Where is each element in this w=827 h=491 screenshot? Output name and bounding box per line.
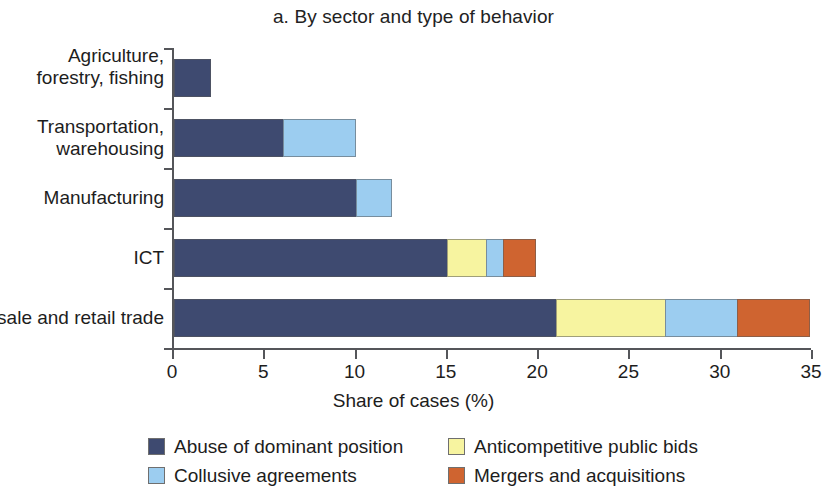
x-axis-tick xyxy=(355,350,357,359)
legend-label: Abuse of dominant position xyxy=(174,436,403,458)
stacked-bar[interactable] xyxy=(174,299,810,337)
y-axis-tick xyxy=(164,228,173,230)
x-axis-tick-label: 10 xyxy=(325,361,385,383)
bar-segment[interactable] xyxy=(447,239,487,277)
bar-segment[interactable] xyxy=(283,119,356,157)
stacked-bar[interactable] xyxy=(174,179,392,217)
legend-label: Collusive agreements xyxy=(174,465,357,487)
legend-swatch-icon xyxy=(448,438,465,455)
y-axis-tick xyxy=(164,288,173,290)
bar-segment[interactable] xyxy=(665,299,738,337)
category-label: Manufacturing xyxy=(0,187,164,209)
y-axis-tick xyxy=(164,108,173,110)
x-axis-tick xyxy=(446,350,448,359)
plot-area xyxy=(172,48,811,348)
x-axis-tick-label: 35 xyxy=(781,361,827,383)
stacked-bar[interactable] xyxy=(174,119,356,157)
x-axis-tick xyxy=(172,350,174,359)
legend-swatch-icon xyxy=(148,438,165,455)
x-axis-tick-label: 25 xyxy=(598,361,658,383)
bar-row xyxy=(174,108,356,168)
bar-row xyxy=(174,48,211,108)
category-label: Agriculture,forestry, fishing xyxy=(0,45,164,89)
legend-label: Mergers and acquisitions xyxy=(474,465,685,487)
chart-title: a. By sector and type of behavior xyxy=(0,6,827,28)
category-label: ICT xyxy=(0,247,164,269)
x-axis-title: Share of cases (%) xyxy=(0,390,827,412)
bar-row xyxy=(174,168,392,228)
stacked-bar[interactable] xyxy=(174,59,211,97)
bar-row xyxy=(174,228,536,288)
bar-segment[interactable] xyxy=(174,59,211,97)
x-axis-tick-label: 15 xyxy=(416,361,476,383)
legend-label: Anticompetitive public bids xyxy=(474,436,698,458)
stacked-bar[interactable] xyxy=(174,239,536,277)
x-axis-line xyxy=(172,348,811,350)
chart-legend: Abuse of dominant positionAnticompetitiv… xyxy=(148,432,788,490)
y-axis-tick xyxy=(164,168,173,170)
bar-segment[interactable] xyxy=(556,299,666,337)
x-axis-tick-label: 30 xyxy=(690,361,750,383)
bar-segment[interactable] xyxy=(174,239,448,277)
x-axis-tick-label: 5 xyxy=(233,361,293,383)
bar-segment[interactable] xyxy=(486,239,504,277)
bar-segment[interactable] xyxy=(174,179,357,217)
x-axis-tick xyxy=(537,350,539,359)
y-axis-tick xyxy=(164,48,173,50)
legend-swatch-icon xyxy=(448,467,465,484)
legend-item[interactable]: Anticompetitive public bids xyxy=(448,436,768,458)
bar-segment[interactable] xyxy=(356,179,393,217)
bar-row xyxy=(174,288,810,348)
bar-segment[interactable] xyxy=(737,299,810,337)
legend-swatch-icon xyxy=(148,467,165,484)
legend-item[interactable]: Collusive agreements xyxy=(148,465,448,487)
x-axis-tick xyxy=(628,350,630,359)
category-label: Wholesale and retail trade xyxy=(0,307,164,329)
x-axis-tick-label: 20 xyxy=(507,361,567,383)
x-axis-tick xyxy=(263,350,265,359)
x-axis-tick xyxy=(720,350,722,359)
bar-segment[interactable] xyxy=(174,299,557,337)
legend-item[interactable]: Abuse of dominant position xyxy=(148,436,448,458)
x-axis-tick xyxy=(811,350,813,359)
legend-item[interactable]: Mergers and acquisitions xyxy=(448,465,768,487)
bar-segment[interactable] xyxy=(174,119,284,157)
x-axis-tick-label: 0 xyxy=(142,361,202,383)
bar-segment[interactable] xyxy=(503,239,536,277)
category-label: Transportation,warehousing xyxy=(0,116,164,160)
